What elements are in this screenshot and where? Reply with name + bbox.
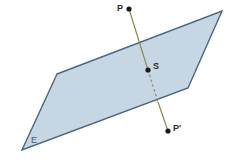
plane-label: E — [31, 136, 37, 145]
segment-plane-exit-to-p-prime — [158, 102, 168, 131]
point-p-marker — [126, 6, 131, 11]
point-p-prime-label: P' — [173, 124, 181, 133]
point-s-label: S — [153, 62, 159, 71]
plane-polygon — [22, 11, 222, 150]
point-p-label: P — [117, 4, 123, 13]
geometry-figure: P S P' E — [0, 0, 230, 165]
point-p-prime-marker — [165, 128, 170, 133]
point-s-marker — [145, 67, 150, 72]
